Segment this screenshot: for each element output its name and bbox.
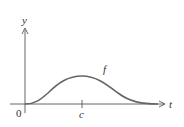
tick-c-label: c <box>79 108 84 120</box>
x-axis-label: t <box>169 98 173 110</box>
function-graph: y t 0 c f <box>0 0 184 127</box>
y-axis: y <box>21 14 28 113</box>
tick-c: c <box>79 100 84 120</box>
origin-label: 0 <box>16 107 22 119</box>
curve-f <box>25 76 158 104</box>
curve-label: f <box>103 63 108 75</box>
y-axis-label: y <box>21 14 27 26</box>
